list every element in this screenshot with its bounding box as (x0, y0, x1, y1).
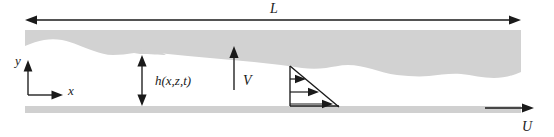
liquid-film-region (25, 30, 521, 78)
u-arrowhead (522, 103, 534, 112)
axis-x-label: x (67, 83, 74, 98)
film-thickness-label: h(x,z,t) (155, 73, 191, 88)
axis-y-arrowhead (24, 60, 33, 72)
diagram-canvas: L y x h(x,z,t) V (0, 0, 554, 137)
length-label: L (269, 1, 278, 16)
thickness-arrowhead-bottom (137, 95, 146, 107)
profile-arrow-middle (290, 88, 319, 96)
coordinate-axes (24, 60, 63, 99)
axis-y-label: y (13, 53, 21, 68)
film-thickness-arrow (137, 55, 146, 106)
arrowhead-left (25, 16, 37, 25)
fluid-film-diagram: L y x h(x,z,t) V (0, 0, 554, 137)
velocity-u-label: U (522, 119, 533, 134)
thickness-arrowhead-top (137, 55, 146, 67)
moving-plate (25, 106, 521, 113)
arrowhead-right (509, 16, 521, 25)
length-dimension-arrow (25, 16, 521, 25)
axis-x-arrowhead (52, 91, 64, 100)
velocity-v-label: V (243, 73, 253, 88)
velocity-profile-triangle (290, 66, 339, 108)
profile-arrow-top (290, 75, 306, 83)
